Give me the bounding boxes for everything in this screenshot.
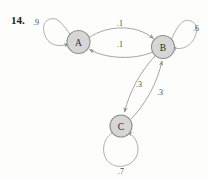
edge-b-to-c: .3 (125, 56, 156, 112)
state-diagram: .9 .1 .1 .6 .3 .3 .7 (0, 0, 208, 181)
node-label-c: C (118, 122, 124, 132)
edge-a-to-b: .1 (89, 19, 154, 39)
node-c[interactable]: C (110, 115, 132, 137)
edge-label-b-c: .3 (136, 80, 142, 89)
edge-label-c-c: .7 (118, 167, 124, 176)
edge-path-a-b (89, 28, 154, 39)
edge-path-c-c (104, 133, 138, 167)
edge-b-to-b: .6 (172, 20, 200, 48)
edge-path-b-a (90, 50, 153, 58)
edge-c-to-c: .7 (104, 133, 138, 176)
edge-label-b-b: .6 (193, 24, 199, 33)
node-label-a: A (75, 38, 82, 48)
edge-label-c-b: .3 (157, 88, 163, 97)
edge-label-a-b: .1 (117, 19, 123, 28)
edge-b-to-a: .1 (90, 40, 153, 58)
edge-label-a-a: .9 (33, 18, 39, 27)
figure-page: 14. .9 .1 .1 .6 .3 (0, 0, 208, 181)
edge-label-b-a: .1 (117, 40, 123, 49)
node-label-b: B (160, 43, 166, 53)
edge-a-to-a: .9 (33, 18, 70, 46)
node-b[interactable]: B (152, 36, 175, 59)
node-a[interactable]: A (67, 31, 90, 54)
edge-path-a-a (44, 19, 70, 46)
edge-c-to-b: .3 (131, 61, 163, 119)
